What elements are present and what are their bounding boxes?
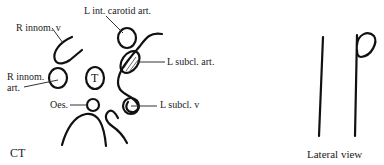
lower-right-curve <box>106 111 127 143</box>
label-l-subcl-art: L subcl. art. <box>167 57 214 67</box>
r-innom-art-shape <box>49 68 67 88</box>
lateral-loop <box>357 33 375 57</box>
r-innom-v-shape <box>54 37 82 63</box>
oesophagus-shape <box>87 99 99 111</box>
label-r-innom-art-line1: R innom. <box>7 72 44 82</box>
label-r-innom-v: R innom. v <box>16 23 61 33</box>
arch-curve <box>62 114 106 146</box>
label-trachea: T <box>91 71 98 86</box>
label-l-subcl-v: L subcl. v <box>160 100 199 110</box>
label-l-int-carotid-art: L int. carotid art. <box>84 6 151 16</box>
label-oesophagus: Oes. <box>50 100 68 110</box>
anatomy-figure: R innom. v L int. carotid art. L subcl. … <box>0 0 384 165</box>
label-r-innom-art-line2: art. <box>7 83 20 93</box>
caption-lateral-view: Lateral view <box>307 149 362 160</box>
caption-ct: CT <box>10 147 25 159</box>
lateral-line-left <box>319 37 323 136</box>
